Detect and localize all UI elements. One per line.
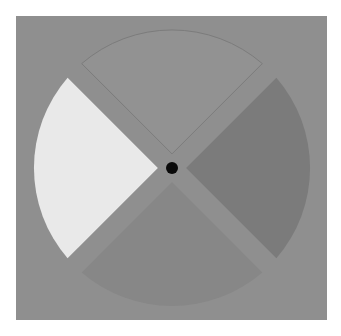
stimulus-canvas xyxy=(0,0,341,336)
fixation-dot xyxy=(166,162,178,174)
